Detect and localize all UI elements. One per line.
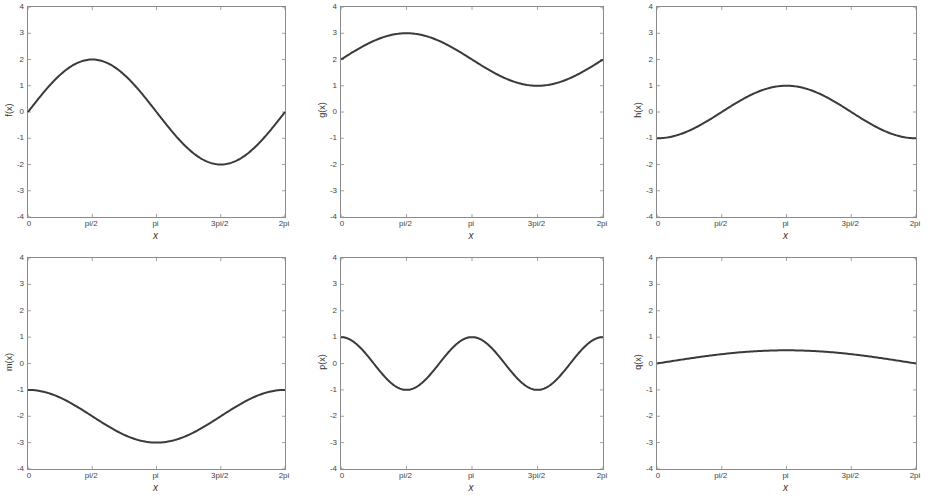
x-tick-label: 0	[340, 471, 344, 480]
x-axis-label: x	[153, 482, 158, 493]
y-tick-label: -3	[639, 185, 653, 194]
plot-area	[27, 257, 286, 470]
x-axis-label: x	[469, 230, 474, 241]
x-tick-label: pi/2	[714, 219, 727, 228]
y-tick-label: 2	[323, 305, 337, 314]
y-tick-label: 1	[323, 80, 337, 89]
x-tick-label: pi	[468, 219, 474, 228]
y-tick-label: 1	[639, 332, 653, 341]
curve-h(x)	[657, 7, 916, 217]
x-tick-label: 3pi/2	[528, 471, 545, 480]
x-tick-label: 2pi	[279, 471, 290, 480]
y-tick-label: 4	[10, 253, 24, 262]
x-tick-label: 3pi/2	[842, 219, 859, 228]
plot-area	[340, 6, 604, 218]
y-tick-label: -4	[10, 212, 24, 221]
y-tick-label: -3	[323, 437, 337, 446]
y-tick-label: 2	[323, 54, 337, 63]
y-tick-label: -2	[10, 159, 24, 168]
y-tick-label: -2	[639, 411, 653, 420]
x-tick-label: pi	[782, 219, 788, 228]
y-tick-label: -4	[10, 464, 24, 473]
curve-f(x)	[28, 7, 285, 217]
plot-area	[340, 257, 604, 470]
y-axis-label: q(x)	[633, 347, 643, 377]
y-tick-label: -1	[323, 384, 337, 393]
plot-area	[27, 6, 286, 218]
x-tick-label: 2pi	[597, 219, 608, 228]
y-tick-label: 1	[323, 332, 337, 341]
y-tick-label: 2	[639, 305, 653, 314]
x-tick-label: pi/2	[399, 471, 412, 480]
x-tick-label: 3pi/2	[528, 219, 545, 228]
x-tick-label: pi	[782, 471, 788, 480]
x-tick-label: pi/2	[85, 219, 98, 228]
y-tick-label: 1	[10, 80, 24, 89]
x-tick-label: 2pi	[597, 471, 608, 480]
y-tick-label: 1	[639, 80, 653, 89]
y-tick-label: 3	[639, 279, 653, 288]
y-axis-label: m(x)	[4, 347, 14, 377]
y-tick-label: -2	[10, 411, 24, 420]
y-tick-label: 3	[639, 28, 653, 37]
x-tick-label: 0	[340, 219, 344, 228]
y-tick-label: -2	[639, 159, 653, 168]
y-axis-label: p(x)	[317, 347, 327, 377]
y-tick-label: 3	[10, 28, 24, 37]
y-tick-label: -4	[323, 212, 337, 221]
x-tick-label: 3pi/2	[842, 471, 859, 480]
y-tick-label: -3	[10, 185, 24, 194]
x-tick-label: pi/2	[714, 471, 727, 480]
y-tick-label: 4	[323, 2, 337, 11]
x-tick-label: 2pi	[279, 219, 290, 228]
y-tick-label: 3	[323, 28, 337, 37]
x-tick-label: 0	[656, 219, 660, 228]
y-tick-label: -3	[10, 437, 24, 446]
x-tick-label: 0	[27, 471, 31, 480]
x-tick-label: pi	[152, 219, 158, 228]
y-tick-label: 4	[639, 2, 653, 11]
curve-m(x)	[28, 258, 285, 469]
y-tick-label: -3	[639, 437, 653, 446]
x-tick-label: pi	[152, 471, 158, 480]
y-tick-label: -4	[639, 212, 653, 221]
plot-area	[656, 6, 917, 218]
y-tick-label: -2	[323, 411, 337, 420]
x-axis-label: x	[783, 230, 788, 241]
plot-area	[656, 257, 917, 470]
y-axis-label: f(x)	[4, 95, 14, 125]
y-axis-label: h(x)	[633, 95, 643, 125]
y-tick-label: -1	[639, 133, 653, 142]
y-tick-label: 4	[10, 2, 24, 11]
x-tick-label: 3pi/2	[211, 219, 228, 228]
y-tick-label: 4	[639, 253, 653, 262]
y-tick-label: 3	[323, 279, 337, 288]
x-tick-label: 3pi/2	[211, 471, 228, 480]
y-tick-label: 4	[323, 253, 337, 262]
curve-q(x)	[657, 258, 916, 469]
y-tick-label: -1	[10, 133, 24, 142]
x-tick-label: 2pi	[910, 471, 921, 480]
x-tick-label: 0	[27, 219, 31, 228]
y-tick-label: -3	[323, 185, 337, 194]
y-tick-label: -1	[639, 384, 653, 393]
x-tick-label: pi/2	[399, 219, 412, 228]
y-tick-label: -4	[639, 464, 653, 473]
y-tick-label: 3	[10, 279, 24, 288]
curve-p(x)	[341, 258, 603, 469]
y-tick-label: 1	[10, 332, 24, 341]
y-tick-label: -1	[323, 133, 337, 142]
y-tick-label: -4	[323, 464, 337, 473]
y-tick-label: -2	[323, 159, 337, 168]
y-tick-label: 2	[10, 305, 24, 314]
x-axis-label: x	[153, 230, 158, 241]
x-tick-label: 0	[656, 471, 660, 480]
x-axis-label: x	[783, 482, 788, 493]
y-tick-label: -1	[10, 384, 24, 393]
y-axis-label: g(x)	[317, 95, 327, 125]
curve-g(x)	[341, 7, 603, 217]
y-tick-label: 2	[10, 54, 24, 63]
x-tick-label: pi	[468, 471, 474, 480]
x-tick-label: 2pi	[910, 219, 921, 228]
x-tick-label: pi/2	[85, 471, 98, 480]
